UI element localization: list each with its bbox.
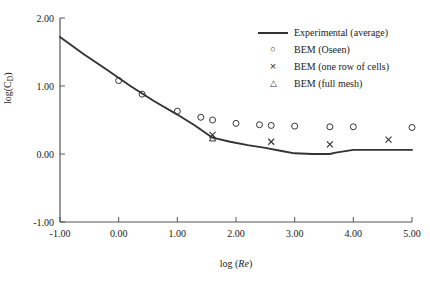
data-point-circle bbox=[210, 117, 216, 123]
legend-row: △BEM (full mesh) bbox=[252, 75, 430, 92]
y-axis-title-subscript: D bbox=[6, 76, 15, 81]
data-point-circle bbox=[292, 123, 298, 129]
line-swatch-icon bbox=[258, 32, 288, 34]
x-axis-tick-label: 1.00 bbox=[169, 228, 187, 239]
legend-cross-icon: × bbox=[252, 61, 294, 72]
chart-legend: Experimental (average)○BEM (Oseen)×BEM (… bbox=[252, 24, 430, 92]
x-axis-tick-label: 3.00 bbox=[286, 228, 304, 239]
x-axis-tick-label: 4.00 bbox=[345, 228, 363, 239]
y-axis-title-suffix: ) bbox=[2, 72, 13, 75]
x-axis-tick-label: -1.00 bbox=[50, 228, 71, 239]
data-point-circle bbox=[256, 122, 262, 128]
drag-coefficient-chart: log(CD) log (Re) -1.000.001.002.00-1.000… bbox=[0, 0, 430, 287]
x-axis-title-italic: Re bbox=[238, 258, 249, 269]
y-axis-title-prefix: log(C bbox=[2, 81, 13, 104]
data-point-circle bbox=[409, 124, 415, 130]
legend-label: BEM (full mesh) bbox=[294, 78, 362, 89]
y-axis-title: log(CD) bbox=[2, 72, 15, 104]
x-axis-title: log (Re) bbox=[220, 258, 253, 269]
data-point-circle bbox=[198, 114, 204, 120]
legend-label: Experimental (average) bbox=[294, 27, 388, 38]
circle-marker-icon: ○ bbox=[270, 45, 275, 54]
data-point-circle bbox=[174, 108, 180, 114]
data-point-circle bbox=[350, 124, 356, 130]
y-axis-tick-label: 1.00 bbox=[16, 81, 54, 92]
cross-marker-icon: × bbox=[270, 61, 276, 72]
legend-triangle-icon: △ bbox=[252, 79, 294, 88]
legend-row: Experimental (average) bbox=[252, 24, 430, 41]
legend-row: ○BEM (Oseen) bbox=[252, 41, 430, 58]
legend-row: ×BEM (one row of cells) bbox=[252, 58, 430, 75]
y-axis-tick-label: 0.00 bbox=[16, 149, 54, 160]
data-point-circle bbox=[327, 124, 333, 130]
x-axis-tick-label: 0.00 bbox=[110, 228, 128, 239]
legend-label: BEM (Oseen) bbox=[294, 44, 350, 55]
x-axis-title-suffix: ) bbox=[249, 258, 252, 269]
legend-label: BEM (one row of cells) bbox=[294, 61, 389, 72]
y-axis-tick-label: -1.00 bbox=[16, 217, 54, 228]
x-axis-tick-label: 5.00 bbox=[403, 228, 421, 239]
triangle-marker-icon: △ bbox=[270, 79, 277, 88]
x-axis-title-prefix: log ( bbox=[220, 258, 239, 269]
y-axis-tick-label: 2.00 bbox=[16, 13, 54, 24]
data-point-cross bbox=[268, 139, 274, 145]
data-point-circle bbox=[268, 122, 274, 128]
x-axis-tick-label: 2.00 bbox=[227, 228, 245, 239]
data-point-cross bbox=[386, 137, 392, 143]
data-point-cross bbox=[327, 141, 333, 147]
data-point-circle bbox=[233, 120, 239, 126]
legend-circle-icon: ○ bbox=[252, 45, 294, 54]
legend-line-icon bbox=[252, 32, 294, 34]
